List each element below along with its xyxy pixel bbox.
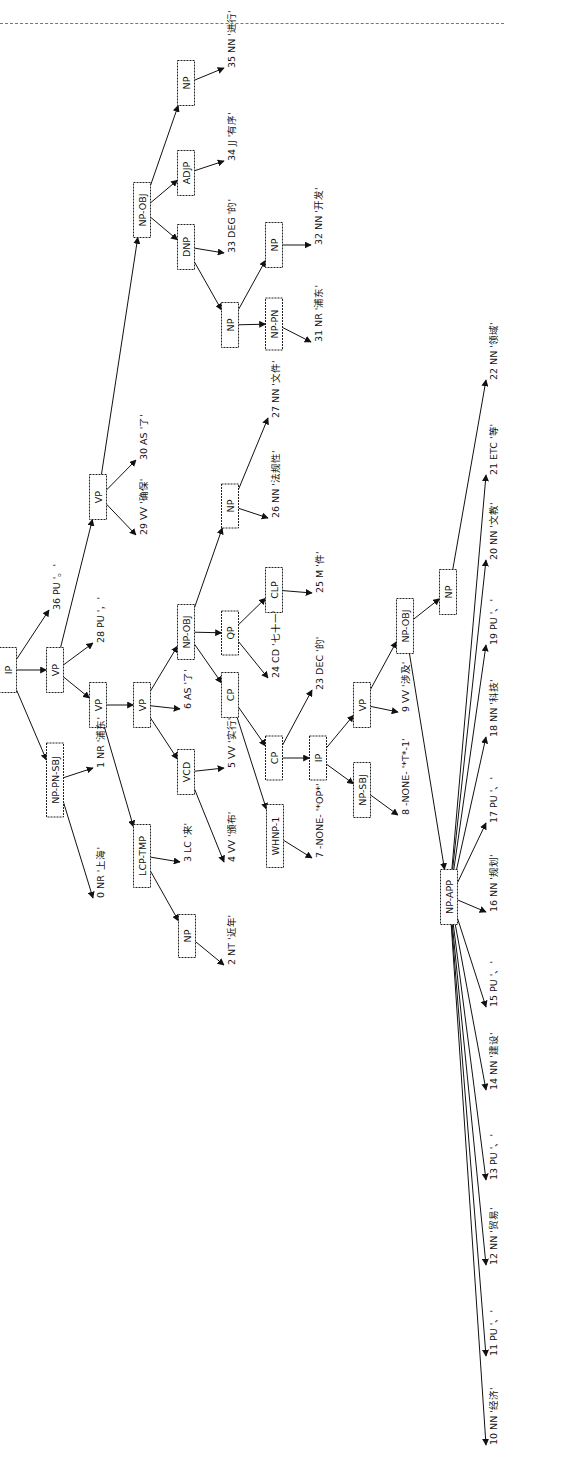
leaf-label: 28 PU '，' xyxy=(95,597,106,643)
tree-leaf-token: 20 NN '文教' xyxy=(488,502,499,560)
tree-edge-arrow xyxy=(457,737,486,870)
leaf-label: 21 ETC '等' xyxy=(488,424,499,475)
tree-node-np-pn: NP-PN xyxy=(266,298,283,350)
tree-node-adjp: ADJP xyxy=(178,151,195,196)
tree-node-np: NP xyxy=(179,915,196,958)
node-label: ADJP xyxy=(181,162,192,185)
tree-edge-arrow xyxy=(195,528,223,608)
tree-edge-arrow xyxy=(371,642,397,690)
tree-edge-arrow xyxy=(239,707,266,746)
tree-edge-arrow xyxy=(327,715,354,748)
node-label: NP-OBJ xyxy=(181,615,192,648)
tree-node-np: NP xyxy=(222,303,239,348)
tree-edge-arrow xyxy=(107,504,137,535)
tree-node-np-pn-sbj: NP-PN-SBJ xyxy=(47,743,64,817)
leaf-label: 12 NN '贸易' xyxy=(488,1207,499,1265)
tree-leaf-token: 36 PU '。' xyxy=(51,564,62,610)
node-label: NP xyxy=(181,76,192,89)
leaf-label: 34 JJ '有序' xyxy=(226,112,237,161)
tree-leaf-token: 3 LC '来' xyxy=(182,823,193,862)
tree-edge-arrow xyxy=(239,508,269,518)
tree-edge-arrow xyxy=(64,643,94,665)
tree-leaf-token: 6 AS '了' xyxy=(182,669,193,709)
tree-edge-arrow xyxy=(195,262,222,310)
node-label: IP xyxy=(3,665,14,674)
leaf-label: 3 LC '来' xyxy=(182,823,193,862)
tree-node-cp: CP xyxy=(222,673,239,718)
tree-leaf-token: 31 NR '浦东' xyxy=(313,285,324,342)
node-label: NP-APP xyxy=(444,880,455,914)
tree-leaf-token: 16 NN '规划' xyxy=(488,854,499,912)
tree-edge-arrow xyxy=(61,520,93,648)
leaf-label: 4 VV '颁布' xyxy=(226,812,237,862)
leaf-label: 18 NN '科技' xyxy=(488,679,499,737)
tree-edge-arrow xyxy=(151,180,178,203)
tree-leaf-token: 4 VV '颁布' xyxy=(226,812,237,862)
node-label: NP xyxy=(269,238,280,251)
tree-node-ip: IP xyxy=(310,736,327,780)
tree-leaf-token: 8 -NONE- '*T*-1' xyxy=(400,738,411,815)
tree-edge-arrow xyxy=(284,840,313,858)
tree-edge-arrow xyxy=(196,942,225,965)
tree-edge-arrow xyxy=(239,418,269,489)
tree-node-vp: VP xyxy=(47,648,64,693)
leaf-label: 17 PU '、' xyxy=(488,777,499,823)
leaf-label: 14 NN '建设' xyxy=(488,1032,499,1090)
tree-edge-arrow xyxy=(151,106,179,186)
node-label: QP xyxy=(225,626,236,639)
tree-node-cp: CP xyxy=(266,736,283,780)
tree-edge-arrow xyxy=(195,248,225,253)
tree-edge-arrow xyxy=(107,460,137,490)
leaf-label: 19 PU '、' xyxy=(488,599,499,645)
tree-leaf-token: 30 AS '了' xyxy=(138,414,149,460)
node-label: WHNP-1 xyxy=(270,817,281,856)
tree-node-np-obj: NP-OBJ xyxy=(397,599,414,654)
node-label: DNP xyxy=(181,237,192,257)
tree-node-whnp-1: WHNP-1 xyxy=(267,805,284,868)
tree-edge-arrow xyxy=(17,690,47,760)
tree-leaf-token: 29 VV '确保' xyxy=(138,479,149,535)
leaf-label: 29 VV '确保' xyxy=(138,479,149,535)
leaf-label: 27 NN '文件' xyxy=(270,360,281,418)
tree-edge-arrow xyxy=(452,475,486,870)
leaf-label: 10 NN '经济' xyxy=(488,1387,499,1445)
tree-leaf-token: 33 DEG '的' xyxy=(226,199,237,253)
tree-edge-arrow xyxy=(327,764,354,784)
leaf-label: 7 -NONE- '*OP*' xyxy=(314,783,325,858)
tree-leaf-token: 24 CD '七十一' xyxy=(270,611,281,678)
tree-edge-arrow xyxy=(151,217,178,240)
leaf-label: 5 VV '实行' xyxy=(226,718,237,768)
tree-node-np: NP xyxy=(222,484,239,528)
leaf-label: 2 NT '近年' xyxy=(226,915,237,965)
leaf-label: 15 PU '、' xyxy=(488,961,499,1007)
tree-leaf-token: 32 NN '开发' xyxy=(313,187,324,245)
tree-node-np: NP xyxy=(266,223,283,268)
tree-node-np-sbj: NP-SBJ xyxy=(354,763,371,818)
tree-node-np-app: NP-APP xyxy=(441,870,458,925)
tree-edge-arrow xyxy=(151,857,181,862)
node-label: NP xyxy=(225,318,236,331)
tree-edge-arrow xyxy=(64,677,90,698)
node-label: IP xyxy=(313,753,324,762)
node-label: VP xyxy=(50,664,61,676)
leaf-label: 30 AS '了' xyxy=(138,414,149,460)
node-label: VP xyxy=(93,491,104,503)
node-label: VP xyxy=(357,699,368,711)
tree-leaf-token: 7 -NONE- '*OP*' xyxy=(314,783,325,858)
node-label: CP xyxy=(269,752,280,765)
node-label: CP xyxy=(225,689,236,702)
tree-node-lcp-tmp: LCP-TMP xyxy=(134,825,151,888)
leaf-label: 35 NN '进行' xyxy=(226,10,237,68)
tree-edge-arrow xyxy=(195,789,225,862)
node-label: NP xyxy=(225,499,236,512)
tree-edge-arrow xyxy=(151,718,178,759)
tree-node-clp: CLP xyxy=(266,568,283,613)
tree-node-np: NP xyxy=(440,570,457,615)
tree-edges xyxy=(17,68,487,1445)
tree-edge-arrow xyxy=(283,591,313,593)
tree-leaf-token: 19 PU '、' xyxy=(488,599,499,645)
leaf-label: 0 NR '上海' xyxy=(95,847,106,898)
leaf-label: 33 DEG '的' xyxy=(226,199,237,253)
node-label: VP xyxy=(137,699,148,711)
node-label: NP-PN xyxy=(269,310,280,339)
